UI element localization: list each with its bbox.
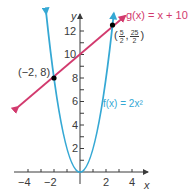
y-tick-label: 12 [64, 26, 76, 37]
point-label-right: (52,252) [114, 29, 144, 44]
paren-close: ) [140, 29, 144, 41]
x-tick-label: −2 [44, 177, 57, 188]
fraction-y: 252 [130, 29, 140, 44]
g-function-label: g(x) = x + 10 [126, 10, 188, 21]
y-tick-label: 10 [64, 49, 76, 60]
x-tick-label: −4 [18, 177, 31, 188]
comma: , [126, 29, 129, 41]
intersection-point-right [110, 22, 115, 27]
chart-plot-area [0, 0, 196, 196]
y-tick-label: 8 [72, 73, 78, 84]
y-axis-label: y [71, 11, 77, 22]
y-tick-label: 4 [72, 120, 78, 131]
x-tick-label: 2 [103, 177, 109, 188]
paren-open: ( [114, 29, 118, 41]
intersection-point-left [51, 75, 56, 80]
y-axis [80, 14, 84, 184]
fraction-x: 52 [119, 29, 125, 44]
point-label-left: (−2, 8) [18, 67, 50, 78]
y-tick-label: 6 [72, 96, 78, 107]
x-axis-label: x [144, 180, 150, 191]
x-tick-label: 4 [129, 177, 135, 188]
y-tick-label: 2 [72, 143, 78, 154]
f-function-label: f(x) = 2x² [103, 99, 143, 109]
